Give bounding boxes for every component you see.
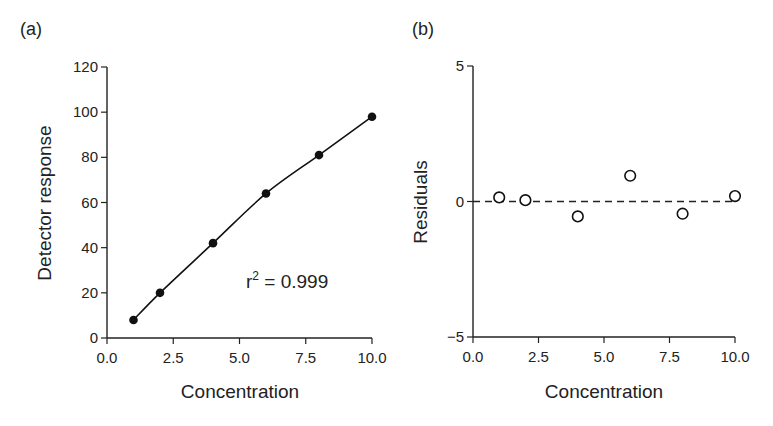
panel-a-x-axis-label: Concentration	[181, 381, 299, 402]
y-tick-label: 0	[456, 193, 464, 210]
x-tick-label: 2.5	[528, 348, 549, 365]
data-point	[315, 151, 324, 160]
data-point	[368, 112, 377, 121]
x-tick-label: 10.0	[357, 349, 386, 366]
panel-a-y-axis-label: Detector response	[34, 125, 55, 280]
residual-point	[730, 191, 741, 202]
residual-point	[625, 170, 636, 181]
panel-b-axes: 0.02.55.07.510.0−505	[447, 57, 750, 365]
y-tick-label: 100	[73, 103, 98, 120]
y-tick-label: 20	[81, 284, 98, 301]
panel-a-calibration-curve: (a) 0.02.55.07.510.0020406080100120 Conc…	[20, 19, 387, 402]
y-tick-label: −5	[447, 328, 464, 345]
data-point	[209, 239, 218, 248]
y-tick-label: 60	[81, 194, 98, 211]
fit-curve	[134, 117, 373, 320]
r-squared-annotation: r2 = 0.999	[246, 269, 328, 292]
data-point	[262, 189, 271, 198]
residual-point	[573, 211, 584, 222]
panel-b-residuals: (b) 0.02.55.07.510.0−505 Concentration R…	[410, 19, 750, 402]
x-tick-label: 5.0	[594, 348, 615, 365]
data-point	[129, 316, 138, 325]
panel-a-plot-area	[129, 112, 376, 324]
panel-b-label: (b)	[412, 19, 434, 39]
y-tick-label: 40	[81, 239, 98, 256]
y-tick-label: 5	[456, 57, 464, 74]
y-tick-label: 80	[81, 148, 98, 165]
x-tick-label: 0.0	[97, 349, 118, 366]
figure: (a) 0.02.55.07.510.0020406080100120 Conc…	[0, 0, 773, 426]
residual-point	[494, 192, 505, 203]
x-tick-label: 0.0	[463, 348, 484, 365]
panel-a-axes: 0.02.55.07.510.0020406080100120	[73, 58, 387, 366]
x-tick-label: 10.0	[720, 348, 749, 365]
y-tick-label: 120	[73, 58, 98, 75]
panel-b-x-axis-label: Concentration	[545, 381, 663, 402]
panel-b-y-axis-label: Residuals	[410, 160, 431, 243]
data-point	[156, 289, 165, 298]
panel-b-plot-area	[473, 170, 740, 221]
residual-point	[520, 195, 531, 206]
residual-point	[677, 208, 688, 219]
x-tick-label: 7.5	[295, 349, 316, 366]
x-tick-label: 7.5	[659, 348, 680, 365]
x-tick-label: 2.5	[163, 349, 184, 366]
y-tick-label: 0	[90, 329, 98, 346]
x-tick-label: 5.0	[229, 349, 250, 366]
panel-a-label: (a)	[20, 19, 42, 39]
